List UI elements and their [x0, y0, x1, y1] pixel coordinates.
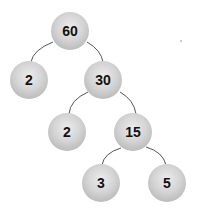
node-60: 60 — [51, 12, 89, 50]
node-label: 15 — [125, 124, 141, 140]
node-label: 3 — [97, 175, 105, 191]
node-label: 2 — [63, 124, 71, 140]
edge-30-2 — [69, 92, 88, 114]
edge-15-5 — [146, 147, 166, 165]
edge-60-2 — [31, 42, 53, 62]
node-3: 3 — [82, 164, 120, 202]
node-2-right: 2 — [48, 113, 86, 151]
edge-30-15 — [120, 92, 136, 114]
node-15: 15 — [114, 113, 152, 151]
edge-60-30 — [87, 42, 103, 62]
node-label: 60 — [62, 23, 78, 39]
node-2-left: 2 — [10, 61, 48, 99]
stray-dot — [180, 40, 182, 42]
node-label: 30 — [95, 72, 111, 88]
node-5: 5 — [148, 164, 186, 202]
node-label: 2 — [25, 72, 33, 88]
node-label: 5 — [163, 175, 171, 191]
node-30: 30 — [84, 61, 122, 99]
edge-15-3 — [102, 148, 121, 165]
